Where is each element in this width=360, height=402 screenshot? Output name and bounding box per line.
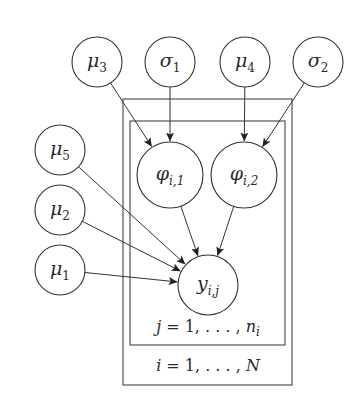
plate-label-inner-range: = 1, . . . , [161, 317, 246, 336]
node-y_ij: yi,j [178, 255, 238, 315]
edge-phi_i2-to-y_ij [218, 206, 234, 255]
node-phi_i1: φi,1 [137, 142, 203, 208]
graphical-model-diagram: μ3σ1μ4σ2φi,1φi,2μ5μ2μ1yi,j j = 1, . . . … [0, 0, 360, 402]
node-sigma2: σ2 [293, 37, 343, 87]
node-mu4: μ4 [220, 37, 270, 87]
node-mu3: μ3 [72, 37, 122, 87]
node-mu5: μ5 [35, 125, 85, 175]
edge-sigma2-to-phi_i2 [263, 83, 305, 147]
edge-mu1-to-y_ij [85, 273, 177, 282]
plate-label-inner: j = 1, . . . , ni [153, 317, 260, 339]
edge-mu4-to-phi_i2 [244, 87, 245, 141]
node-phi_i2: φi,2 [211, 142, 277, 208]
plate-label-outer-range: = 1, . . . , [161, 356, 246, 375]
plate-label-outer: i = 1, . . . , N [156, 356, 261, 375]
node-mu2: μ2 [35, 185, 85, 235]
plate-label-inner-sub: i [256, 325, 260, 339]
nodes-group: μ3σ1μ4σ2φi,1φi,2μ5μ2μ1yi,j [35, 37, 343, 315]
edge-mu3-to-phi_i1 [111, 83, 152, 146]
edge-phi_i1-to-y_ij [181, 206, 198, 256]
node-sigma1: σ1 [145, 37, 195, 87]
node-mu1: μ1 [35, 245, 85, 295]
